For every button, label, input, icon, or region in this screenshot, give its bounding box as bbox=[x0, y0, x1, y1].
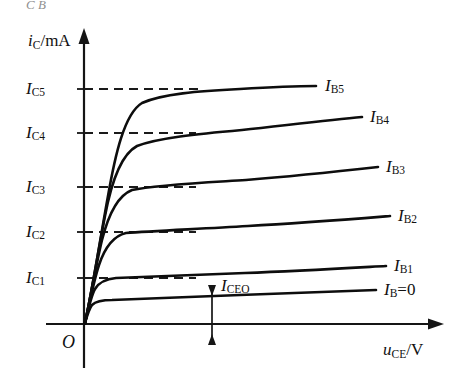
x-axis-title-symbol: u bbox=[383, 340, 392, 359]
y-axis-title: iC/mA bbox=[28, 31, 71, 51]
y-tick-label-ic2: IC2 bbox=[25, 222, 45, 241]
curve-label-ib4: IB4 bbox=[369, 107, 389, 126]
curve-label-ib4-subscript: B4 bbox=[376, 114, 390, 126]
y-tick-label-ic3-subscript: C3 bbox=[32, 184, 46, 196]
iceo-label-subscript: CEO bbox=[227, 283, 250, 295]
y-tick-label-ic4: IC4 bbox=[25, 123, 45, 142]
y-tick-label-ic5-subscript: C5 bbox=[32, 86, 46, 98]
iceo-annotation: ICEO bbox=[208, 276, 250, 345]
x-axis-arrowhead bbox=[428, 319, 444, 330]
x-axis-title-subscript: CE bbox=[392, 348, 407, 360]
origin-label: O bbox=[62, 332, 75, 352]
y-axis-title-unit: /mA bbox=[40, 31, 71, 50]
curve-label-ib0: IB=0 bbox=[383, 280, 415, 299]
curve-label-ib3-subscript: B3 bbox=[392, 164, 406, 176]
iceo-arrowhead-up bbox=[208, 285, 216, 296]
cropped-header-fragment: C B bbox=[26, 0, 46, 12]
x-axis-title-unit: /V bbox=[406, 340, 424, 359]
y-tick-label-ic2-subscript: C2 bbox=[32, 229, 46, 241]
curve-label-ib1-subscript: B1 bbox=[400, 263, 414, 275]
curve-label-ib1: IB1 bbox=[393, 256, 413, 275]
axes-group bbox=[46, 28, 444, 368]
y-tick-label-ic3: IC3 bbox=[25, 177, 45, 196]
curve-label-ib2: IB2 bbox=[397, 206, 417, 225]
x-axis-title: uCE/V bbox=[383, 340, 424, 360]
curve-label-ib3: IB3 bbox=[385, 157, 405, 176]
curve-ib5 bbox=[85, 86, 316, 323]
y-tick-label-ic5: IC5 bbox=[25, 79, 45, 98]
transistor-output-characteristics-figure: C B iC/mA uCE/V O IC5 IC4 bbox=[0, 0, 462, 381]
iceo-arrowhead-down bbox=[208, 334, 216, 345]
curve-label-ib5-subscript: B5 bbox=[331, 83, 345, 95]
y-tick-label-ic1: IC1 bbox=[25, 268, 45, 287]
y-axis-arrowhead bbox=[79, 28, 90, 44]
y-tick-label-ic4-subscript: C4 bbox=[32, 130, 46, 142]
iceo-label: ICEO bbox=[220, 276, 250, 295]
curve-label-ib2-subscript: B2 bbox=[404, 213, 418, 225]
y-tick-label-ic1-subscript: C1 bbox=[32, 275, 46, 287]
curve-label-ib0-suffix: =0 bbox=[397, 280, 415, 299]
figure-canvas: C B iC/mA uCE/V O IC5 IC4 bbox=[0, 0, 462, 381]
curve-label-ib5: IB5 bbox=[324, 76, 344, 95]
curve-ib0 bbox=[85, 290, 376, 323]
